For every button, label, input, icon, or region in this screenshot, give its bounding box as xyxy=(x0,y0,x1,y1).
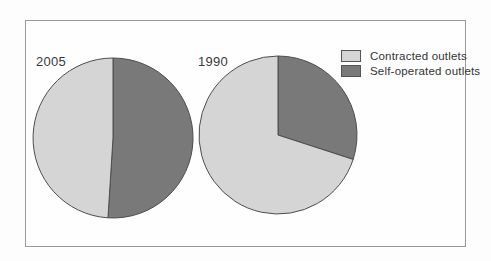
figure: 2005 1990 Contracted outlets Self-operat… xyxy=(0,0,491,261)
legend-label-self-operated: Self-operated outlets xyxy=(370,65,480,77)
legend-label-contracted: Contracted outlets xyxy=(370,50,467,62)
legend-swatch-self-operated-icon xyxy=(341,65,361,77)
pie-title-1990: 1990 xyxy=(198,54,228,69)
legend-item-contracted: Contracted outlets xyxy=(341,50,480,61)
legend-item-self-operated: Self-operated outlets xyxy=(341,65,480,76)
legend-swatch-contracted-icon xyxy=(341,50,361,62)
pie-title-2005: 2005 xyxy=(36,54,66,69)
legend: Contracted outlets Self-operated outlets xyxy=(341,50,480,76)
